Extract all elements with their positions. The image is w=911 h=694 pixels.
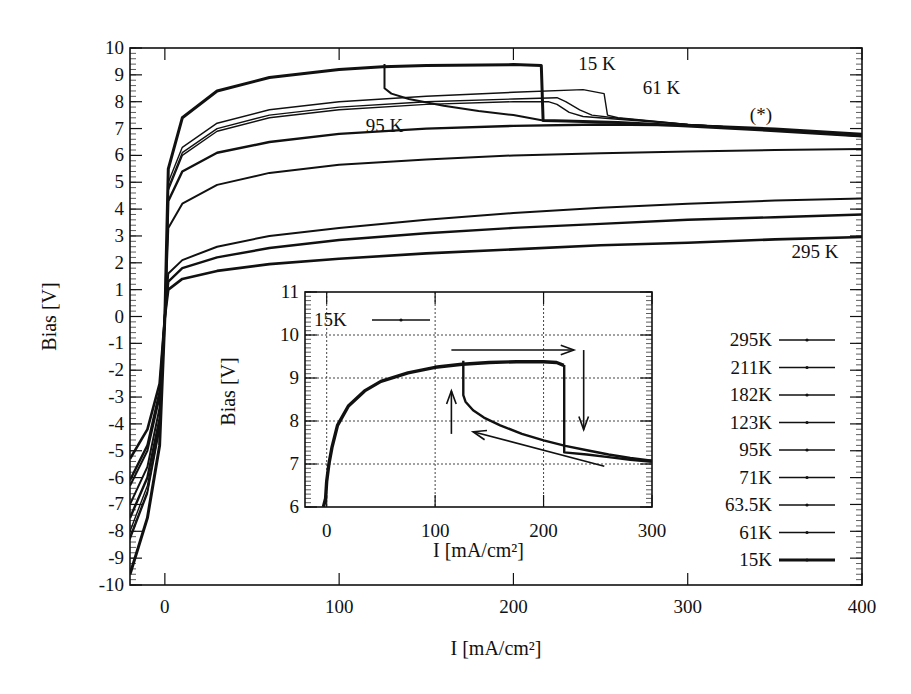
legend-item: 61K xyxy=(739,522,835,543)
y-tick-label: 6 xyxy=(290,496,300,517)
legend-marker xyxy=(805,448,808,451)
legend-label: 63.5K xyxy=(725,494,772,515)
y-tick-label: 8 xyxy=(115,91,125,112)
legend-marker xyxy=(805,338,808,341)
y-tick-label: 6 xyxy=(115,144,125,165)
x-tick-label: 100 xyxy=(421,520,450,541)
x-tick-label: 0 xyxy=(160,596,170,617)
legend-marker xyxy=(805,531,808,534)
y-tick-label: -2 xyxy=(108,359,124,380)
curve-label: 295 K xyxy=(791,241,838,262)
y-tick-label: 10 xyxy=(280,324,299,345)
x-tick-label: 100 xyxy=(325,596,354,617)
inset-legend-label: 15K xyxy=(314,309,347,330)
y-tick-label: 7 xyxy=(115,118,125,139)
y-tick-label: -6 xyxy=(108,467,124,488)
y-tick-label: -3 xyxy=(108,386,124,407)
legend-label: 295K xyxy=(730,329,773,350)
y-tick-label: -8 xyxy=(108,520,124,541)
legend-item: 182K xyxy=(730,384,835,405)
legend-item: 95K xyxy=(739,439,835,460)
legend-label: 71K xyxy=(739,467,772,488)
x-tick-label: 400 xyxy=(848,596,877,617)
y-tick-label: 3 xyxy=(115,225,125,246)
legend-label: 182K xyxy=(730,384,773,405)
x-tick-label: 300 xyxy=(638,520,667,541)
legend-marker xyxy=(805,558,808,561)
curve-label: (*) xyxy=(750,104,772,126)
inset-plot: 678910110100200300I [mA/cm²]Bias [V]15K xyxy=(217,278,666,568)
x-axis-title: I [mA/cm²] xyxy=(433,539,524,561)
x-tick-label: 300 xyxy=(673,596,702,617)
y-tick-label: 5 xyxy=(115,171,125,192)
x-tick-label: 200 xyxy=(529,520,558,541)
legend-marker xyxy=(805,393,808,396)
legend-marker xyxy=(805,476,808,479)
y-axis-title: Bias [V] xyxy=(217,357,239,425)
chart-canvas: -10-9-8-7-6-5-4-3-2-10123456789100100200… xyxy=(0,0,911,694)
y-tick-label: 8 xyxy=(290,410,300,431)
legend-item: 295K xyxy=(730,329,835,350)
y-tick-label: -7 xyxy=(108,493,124,514)
y-tick-label: -9 xyxy=(108,547,124,568)
y-tick-label: -4 xyxy=(108,413,124,434)
y-axis-title: Bias [V] xyxy=(38,282,60,350)
legend-label: 211K xyxy=(730,357,772,378)
legend-item: 123K xyxy=(730,412,835,433)
x-tick-label: 200 xyxy=(499,596,528,617)
legend-item: 71K xyxy=(739,467,835,488)
legend-marker xyxy=(805,503,808,506)
curve-label: 61 K xyxy=(643,77,681,98)
x-tick-label: 0 xyxy=(322,520,332,541)
y-tick-label: 1 xyxy=(115,279,125,300)
y-tick-label: 9 xyxy=(115,64,125,85)
legend-marker xyxy=(805,421,808,424)
curve-label: 15 K xyxy=(578,53,616,74)
y-tick-label: 9 xyxy=(290,367,300,388)
y-tick-label: 0 xyxy=(115,306,125,327)
y-tick-label: -1 xyxy=(108,332,124,353)
y-tick-label: -10 xyxy=(99,574,124,595)
y-tick-label: 4 xyxy=(115,198,125,219)
legend-item: 63.5K xyxy=(725,494,835,515)
y-tick-label: -5 xyxy=(108,440,124,461)
legend-label: 95K xyxy=(739,439,772,460)
legend-label: 15K xyxy=(739,549,772,570)
curve-label: 95 K xyxy=(366,115,404,136)
legend-label: 123K xyxy=(730,412,773,433)
y-tick-label: 11 xyxy=(281,281,299,302)
y-tick-label: 2 xyxy=(115,252,125,273)
legend-marker xyxy=(805,366,808,369)
legend-label: 61K xyxy=(739,522,772,543)
legend-item: 15K xyxy=(739,549,835,570)
inset-legend-marker xyxy=(399,318,402,321)
y-tick-label: 10 xyxy=(105,37,124,58)
legend-item: 211K xyxy=(730,357,835,378)
x-axis-title: I [mA/cm²] xyxy=(451,637,542,659)
y-tick-label: 7 xyxy=(290,453,300,474)
